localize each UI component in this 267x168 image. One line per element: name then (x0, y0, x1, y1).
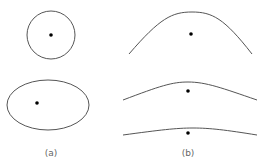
bell-curve-medium (123, 82, 257, 100)
bell-curve-flat-dot (186, 131, 190, 135)
panel-a-label: (a) (45, 148, 58, 158)
bell-curve-flat (123, 128, 257, 135)
bell-curve-medium-dot (186, 89, 190, 93)
bell-curve-high-dot (189, 32, 193, 36)
ellipse-focus-dot (35, 101, 39, 105)
panel-b: (b) (123, 12, 257, 158)
panel-b-label: (b) (182, 148, 195, 158)
ellipse-shape (7, 80, 89, 130)
panel-a: (a) (7, 11, 89, 158)
circle-center-dot (49, 33, 53, 37)
figure: (a) (b) (0, 0, 267, 168)
